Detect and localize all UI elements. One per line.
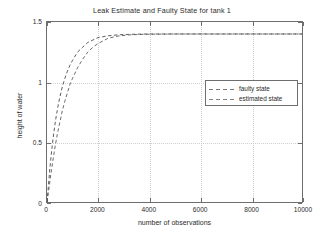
plot-area: [46, 21, 303, 203]
y-tick-label: 0.5: [33, 139, 42, 146]
chart-title: Leak Estimate and Faulty State for tank …: [0, 6, 324, 15]
x-tick-mark: [303, 198, 304, 202]
y-tick-label: 0: [38, 200, 42, 207]
legend-label-faulty-state: faulty state: [239, 86, 270, 92]
x-tick-label: 6000: [193, 206, 208, 213]
x-tick-label: 4000: [141, 206, 156, 213]
x-tick-label: 0: [44, 206, 48, 213]
y-tick-label: 1.5: [33, 18, 42, 25]
x-tick-mark: [303, 22, 304, 26]
legend-box: faulty state estimated state: [205, 80, 298, 106]
legend-line-sample-faulty: [209, 89, 235, 90]
y-tick-label: 1: [38, 78, 42, 85]
legend-label-estimated-state: estimated state: [239, 96, 282, 102]
legend-line-sample-estimated: [209, 99, 235, 100]
y-axis-label: height of water: [16, 66, 23, 166]
legend-item-estimated-state: estimated state: [209, 94, 282, 105]
data-curves: [47, 22, 302, 202]
series-line-faulty-state: [47, 34, 302, 202]
y-tick-mark: [298, 203, 302, 204]
figure-canvas: Leak Estimate and Faulty State for tank …: [0, 0, 324, 237]
x-axis-label: number of observations: [46, 219, 303, 226]
series-line-estimated-state: [47, 34, 302, 202]
y-tick-mark: [47, 203, 51, 204]
x-tick-label: 10000: [294, 206, 312, 213]
x-tick-label: 8000: [244, 206, 259, 213]
x-tick-label: 2000: [90, 206, 105, 213]
